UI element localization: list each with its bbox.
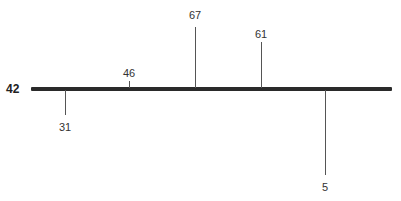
- tick-line: [195, 27, 196, 88]
- node-label: 5: [322, 181, 328, 193]
- tick-line: [65, 90, 66, 115]
- tick-line: [325, 90, 326, 175]
- tick-line: [261, 42, 262, 88]
- node-label: 67: [189, 9, 201, 21]
- main-axis-line: [31, 87, 392, 91]
- node-label: 31: [59, 121, 71, 133]
- tick-line: [129, 81, 130, 88]
- root-label: 42: [6, 82, 19, 96]
- node-label: 46: [123, 67, 135, 79]
- node-label: 61: [255, 28, 267, 40]
